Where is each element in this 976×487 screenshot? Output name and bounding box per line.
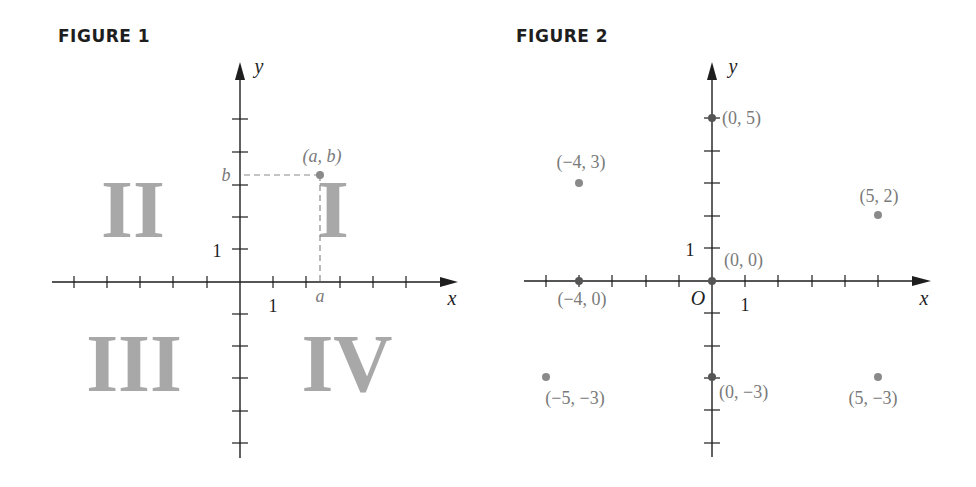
origin-label: O [691,287,705,309]
a-label: a [316,286,325,306]
y-axis-label: y [253,55,264,78]
point-neg4-3 [575,179,583,187]
y-tick-label-1: 1 [686,240,695,260]
point-label-0-neg3: (0, −3) [719,382,768,403]
point-0-neg3 [708,373,716,381]
x-axis-arrow-icon [440,277,458,287]
point-label-0-0: (0, 0) [724,250,763,271]
quadrant-2-label: II [101,164,165,255]
quadrant-4-label: IV [301,318,392,409]
point-label-0-5: (0, 5) [722,108,761,129]
point-0-5 [708,114,716,122]
point-a-b-label: (a, b) [303,146,342,167]
point-label-neg5-neg3: (−5, −3) [545,388,604,409]
x-axis-arrow-icon [912,276,931,286]
point-5-2 [874,211,882,219]
y-axis-arrow-icon [235,62,245,80]
y-tick-label-1: 1 [213,241,222,261]
point-label-5-2: (5, 2) [860,186,899,207]
point-neg5-neg3 [542,373,550,381]
figure2-plot: (0, 5) (−4, 3) (5, 2) (0, 0) (−4, 0) (−5… [524,55,931,457]
point-a-b [316,171,324,179]
x-tick-label-1: 1 [741,295,750,315]
point-neg4-0 [575,277,583,285]
y-axis-label: y [727,55,738,78]
y-axis-arrow-icon [707,62,717,80]
point-label-5-neg3: (5, −3) [848,388,897,409]
b-label: b [222,165,231,185]
point-0-0 [708,277,716,285]
point-5-neg3 [874,373,882,381]
point-label-neg4-3: (−4, 3) [556,152,605,173]
x-tick-label-1: 1 [269,296,278,316]
quadrant-3-label: III [86,318,182,409]
figure1-plot: II I III IV [52,55,458,458]
x-axis-label: x [447,287,457,309]
point-label-neg4-0: (−4, 0) [557,289,606,310]
x-axis-label: x [919,287,929,309]
